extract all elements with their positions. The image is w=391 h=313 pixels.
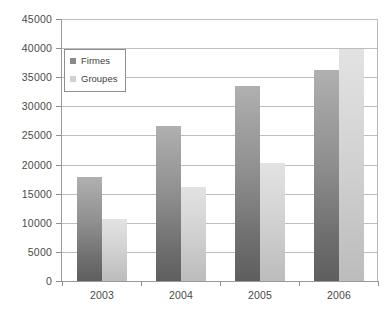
bar-groupes-2006 [339,49,364,281]
y-tick-label: 45000 [22,13,52,25]
x-tick-mark [378,281,379,286]
legend-swatch-icon [70,58,76,64]
legend-entry-label: Groupes [81,74,117,84]
bar-firmes-2006 [314,70,339,281]
x-tick-mark [299,281,300,286]
bar-groupes-2004 [181,187,206,281]
bar-chart: 0500010000150002000025000300003500040000… [0,0,391,313]
legend-entry-label: Firmes [81,56,110,66]
legend-swatch-icon [70,76,76,82]
x-tick-label: 2004 [169,289,193,301]
x-tick-mark [220,281,221,286]
bar-groupes-2005 [260,163,285,281]
x-tick-mark [62,281,63,286]
legend-entry-groupes: Groupes [70,74,117,84]
y-tick-label: 10000 [22,217,52,229]
bar-firmes-2005 [235,86,260,281]
y-tick-label: 20000 [22,159,52,171]
y-tick-label: 25000 [22,129,52,141]
y-tick-label: 40000 [22,42,52,54]
y-tick-label: 35000 [22,71,52,83]
bar-firmes-2004 [156,126,181,281]
x-tick-label: 2006 [327,289,351,301]
x-tick-mark [141,281,142,286]
bar-firmes-2003 [77,177,102,281]
chart-legend: Firmes Groupes [64,49,126,92]
y-tick-label: 5000 [28,246,52,258]
y-tick-label: 15000 [22,188,52,200]
y-tick-label: 0 [46,275,52,287]
x-tick-label: 2003 [90,289,114,301]
y-tick-label: 30000 [22,100,52,112]
legend-entry-firmes: Firmes [70,56,110,66]
x-tick-label: 2005 [248,289,272,301]
bar-groupes-2003 [102,219,127,281]
